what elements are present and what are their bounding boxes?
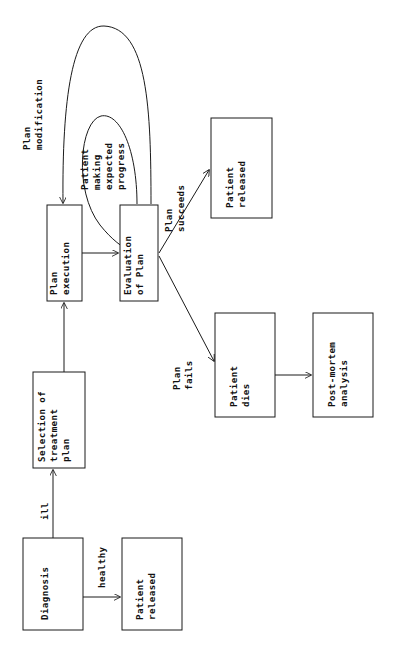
node-patient-dies-line-1: Patient <box>228 365 239 407</box>
edge-label-plan-modification-line-2: modification <box>33 79 44 150</box>
edge-label-plan-fails: Plan fails <box>171 360 194 390</box>
node-plan-execution-line-2: execution <box>60 242 71 295</box>
edge-diagnosis-to-selection: ill <box>39 470 53 538</box>
node-patient-released-healthy-label: Patient released <box>134 573 157 620</box>
edge-label-progress: Patient making expected progress <box>79 137 126 190</box>
node-selection-of-treatment-plan[interactable]: Selection of treatment plan <box>33 372 85 468</box>
node-selection-line-1: Selection of <box>36 391 47 462</box>
flowchart-canvas: ill healthy Plan modification <box>0 0 395 648</box>
node-patient-dies[interactable]: Patient dies <box>215 313 275 417</box>
node-evaluation-of-plan[interactable]: Evaluation of Plan <box>120 205 158 301</box>
node-selection-line-3: plan <box>60 438 71 462</box>
edge-label-plan-succeeds-line-1: Plan <box>163 208 174 232</box>
edge-label-plan-modification-line-1: Plan <box>21 126 32 150</box>
edge-diagnosis-to-released-healthy: healthy <box>83 546 120 597</box>
node-patient-released-healthy-line-1: Patient <box>134 578 145 620</box>
node-patient-released-success-line-2: released <box>236 161 247 208</box>
node-patient-released-success-line-1: Patient <box>224 166 235 208</box>
node-patient-released-healthy-line-2: released <box>146 573 157 620</box>
edge-label-ill-line: ill <box>39 502 50 520</box>
node-patient-dies-line-2: dies <box>240 383 251 407</box>
node-diagnosis-label: Diagnosis <box>39 567 50 620</box>
edge-label-plan-fails-line-2: fails <box>183 360 194 390</box>
edge-evaluation-to-patient-dies: Plan fails <box>159 256 214 390</box>
edge-label-progress-line-2: making <box>91 154 102 190</box>
edge-label-healthy: healthy <box>96 546 107 588</box>
edge-label-plan-succeeds: Plan succeeds <box>163 185 186 232</box>
flowchart-svg: ill healthy Plan modification <box>0 0 395 648</box>
node-post-mortem-line-1: Post-mortem <box>326 342 337 407</box>
node-post-mortem-analysis[interactable]: Post-mortem analysis <box>313 313 373 417</box>
edge-evaluation-to-released-success: Plan succeeds <box>159 170 209 253</box>
edge-label-progress-line-4: progress <box>115 143 126 190</box>
edge-label-healthy-line: healthy <box>96 546 107 588</box>
edge-label-progress-line-1: Patient <box>79 148 90 190</box>
node-diagnosis[interactable]: Diagnosis <box>23 538 83 630</box>
node-diagnosis-line-1: Diagnosis <box>39 567 50 620</box>
node-evaluation-line-2: of Plan <box>134 253 145 295</box>
node-plan-execution[interactable]: Plan execution <box>47 205 82 301</box>
node-patient-released-success[interactable]: Patient released <box>211 118 272 218</box>
node-patient-released-healthy[interactable]: Patient released <box>122 538 182 630</box>
node-patient-released-success-label: Patient released <box>224 161 247 208</box>
node-plan-execution-line-1: Plan <box>48 271 59 295</box>
edge-label-ill: ill <box>39 502 50 520</box>
node-selection-line-2: treatment <box>48 409 59 462</box>
edge-label-plan-modification: Plan modification <box>21 79 44 150</box>
edge-label-plan-fails-line-1: Plan <box>171 366 182 390</box>
edge-label-plan-succeeds-line-2: succeeds <box>175 185 186 232</box>
edge-label-progress-line-3: expected <box>103 143 114 190</box>
node-evaluation-line-1: Evaluation <box>122 236 133 295</box>
node-post-mortem-line-2: analysis <box>338 360 349 407</box>
